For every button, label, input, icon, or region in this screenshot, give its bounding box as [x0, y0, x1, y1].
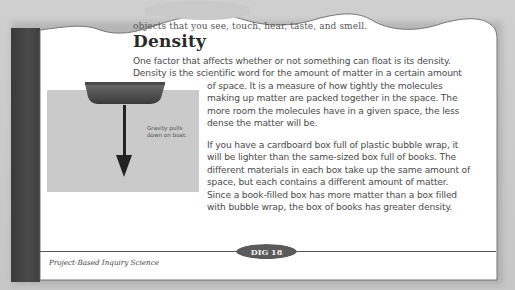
paragraph-box-example: If you have a cardboard box full of plas… — [207, 139, 472, 213]
page-number-badge: DIG 18 — [236, 244, 297, 259]
paragraph-intro: One factor that affects whether or not s… — [133, 55, 473, 80]
textbook-page: ...called w... objects that you see, tou… — [40, 0, 496, 290]
previous-paragraph-ending: objects that you see, touch, hear, taste… — [133, 21, 367, 31]
down-arrow-icon — [123, 105, 126, 161]
boat-gravity-figure: Gravity pulls down on boat. — [47, 90, 199, 192]
publisher-name: Project-Based Inquiry Science — [49, 258, 159, 267]
arrow-head — [116, 155, 132, 177]
figure-caption: Gravity pulls down on boat. — [147, 125, 197, 139]
paragraph-intro-line2: Density is the scientific word for the a… — [133, 67, 473, 79]
paragraph-intro-line1: One factor that affects whether or not s… — [133, 55, 473, 67]
paragraph-intro-continued: of space. It is a measure of how tightly… — [207, 80, 472, 130]
boat-icon — [85, 82, 165, 105]
section-heading: Density — [133, 31, 206, 51]
